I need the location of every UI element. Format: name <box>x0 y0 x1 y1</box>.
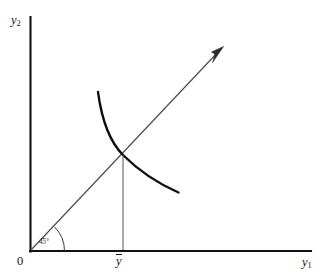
optimum-tick-label-text: y <box>116 254 122 268</box>
angle-label: 45° <box>39 239 49 246</box>
forty-five-degree-ray <box>31 52 218 250</box>
x-axis-label-subscript: 1 <box>308 260 312 270</box>
y-axis-label-subscript: 2 <box>17 18 21 28</box>
x-axis-label: y1 <box>302 256 312 270</box>
indifference-curve-figure: y2 y1 0 45° y <box>0 0 328 279</box>
optimum-tick-label: y <box>116 254 122 268</box>
angle-arc-marker <box>55 227 65 251</box>
figure-canvas <box>0 0 328 279</box>
y-axis-label: y2 <box>11 14 21 28</box>
origin-label: 0 <box>17 255 23 268</box>
ray-arrowhead-icon <box>212 47 224 63</box>
